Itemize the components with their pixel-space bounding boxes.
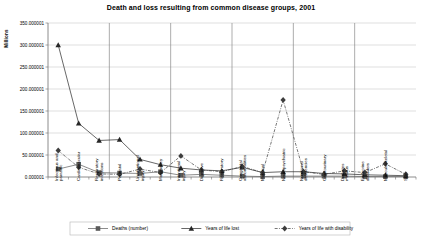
x-category-label-line: Skin	[403, 172, 408, 181]
x-category-label-line: disorders	[365, 162, 370, 181]
data-point	[76, 120, 82, 125]
x-category-label: Nutritionaldeficiencies	[299, 157, 309, 181]
x-category-label-line: deficiencies	[303, 157, 308, 181]
legend-label: Years of life with disability	[299, 226, 354, 231]
x-category-label-line: Cardiovascular	[76, 151, 81, 181]
legend-marker-diamond	[282, 226, 287, 232]
x-category-label: Intentionalinjury	[176, 161, 186, 181]
x-category-label: Respiratoryinfections	[94, 158, 104, 181]
y-tick-label: 0.000001	[25, 175, 45, 180]
data-point	[178, 153, 183, 159]
x-category-label-line: Respiratory	[219, 158, 224, 181]
data-point	[280, 97, 285, 103]
x-category-label-line: mellitus	[344, 165, 349, 181]
x-category-label-line: injury	[181, 170, 186, 181]
x-category-label-line: infections	[99, 162, 104, 181]
x-category-label: Perinatal	[117, 164, 122, 181]
y-tick-label: 200.000001	[20, 87, 45, 92]
x-category-label: Musculoskeletal	[383, 150, 388, 181]
x-category-label-line: Digestive	[199, 162, 204, 181]
legend-item[interactable]: Years of life with disability	[275, 226, 354, 232]
x-category-label-line: Malignancy	[158, 158, 163, 181]
legend-item[interactable]: Deaths (number)	[88, 226, 148, 231]
chart-legend: Deaths (number)Years of life lostYears o…	[70, 222, 354, 235]
x-category-label-line: Maternal	[260, 164, 265, 181]
x-category-label-line: abnormalities	[242, 154, 247, 181]
y-tick-labels-group: 0.00000150.000001100.000001150.000001200…	[20, 21, 45, 180]
x-category-label: Unintentionalinjury	[135, 155, 145, 181]
category-separators-group	[109, 23, 354, 177]
x-category-label: Congenitalabnormalities	[238, 154, 248, 181]
x-category-label: Respiratory	[219, 158, 224, 181]
data-point	[55, 42, 61, 47]
data-point	[56, 148, 61, 154]
chart-container: Death and loss resulting from common dis…	[0, 0, 422, 241]
y-tick-label: 300.000001	[20, 43, 45, 48]
x-category-label: Endocrinedisorders	[360, 161, 370, 181]
x-category-label: Digestive	[199, 162, 204, 181]
x-category-label-line: Perinatal	[117, 164, 122, 181]
x-category-label: Neuropsychiatric	[281, 147, 286, 181]
x-category-label: Infectious andparasitic	[54, 153, 64, 181]
x-category-label-line: Genitourinary	[322, 154, 327, 181]
y-tick-label: 350.000001	[20, 21, 45, 26]
data-point	[117, 137, 123, 142]
chart-plot: 0.00000150.000001100.000001150.000001200…	[0, 0, 422, 241]
x-category-label: Skin	[403, 172, 408, 181]
y-tick-label: 150.000001	[20, 109, 45, 114]
x-category-label: Malignancy	[158, 158, 163, 181]
x-category-label: Diabetesmellitus	[340, 163, 350, 181]
y-tick-label: 250.000001	[20, 65, 45, 70]
x-category-label-line: parasitic	[58, 164, 63, 181]
y-tick-label: 100.000001	[20, 131, 45, 136]
y-tick-label: 50.000001	[22, 153, 44, 158]
legend-label: Years of life lost	[205, 226, 239, 231]
legend-label: Deaths (number)	[112, 226, 148, 231]
x-category-label: Cardiovascular	[76, 151, 81, 181]
legend-marker-square	[96, 226, 101, 231]
x-category-label-line: Musculoskeletal	[383, 150, 388, 181]
legend-item[interactable]: Years of life lost	[181, 226, 239, 232]
x-category-label-line: injury	[140, 170, 145, 181]
x-category-label-line: Neuropsychiatric	[281, 147, 286, 181]
x-category-label: Genitourinary	[322, 154, 327, 181]
x-category-label: Maternal	[260, 164, 265, 181]
